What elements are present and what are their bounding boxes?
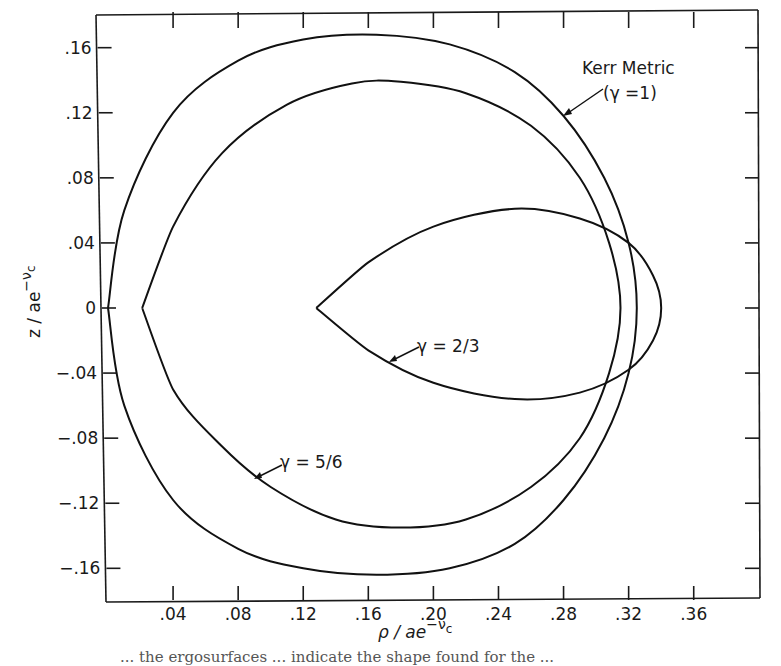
x-tick-label: .08: [225, 604, 252, 624]
y-tick-labels: .16.12.08.040−.04−.08−.12−.16: [56, 38, 101, 579]
x-tick-label: .24: [485, 604, 512, 624]
gamma-5-6-label: γ = 5/6: [280, 452, 342, 472]
y-tick-label: −.12: [58, 493, 99, 513]
svg-text:ρ / ae−νc: ρ / ae−νc: [378, 616, 452, 642]
x-tick-label: .36: [680, 604, 707, 624]
gamma-5-6-arrow: [258, 465, 282, 477]
kerr-label-line2: (γ =1): [603, 83, 657, 103]
kerr-label-line1: Kerr Metric: [582, 58, 675, 78]
figure-caption: ... the ergosurfaces ... indicate the sh…: [120, 648, 554, 666]
gamma-2-3-label: γ = 2/3: [417, 336, 479, 356]
y-tick-label: 0: [85, 298, 96, 318]
arrow-head-icon: [389, 355, 397, 362]
y-tick-label: .08: [67, 168, 94, 188]
y-tick-label: .04: [68, 233, 95, 253]
x-tick-label: .12: [290, 604, 317, 624]
y-tick-label: −.16: [59, 558, 100, 578]
y-tick-label: .16: [65, 38, 92, 58]
x-tick-label: .32: [615, 604, 642, 624]
x-tick-label: .28: [550, 604, 577, 624]
y-tick-label: −.04: [56, 363, 97, 383]
annotation-gamma-5-6: γ = 5/6: [254, 452, 342, 479]
curves: [108, 34, 661, 574]
arrow-head-icon: [563, 108, 572, 116]
kerr-arrow: [568, 89, 603, 113]
x-axis-title: ρ / ae−νc: [378, 616, 452, 642]
annotation-gamma-2-3: γ = 2/3: [389, 336, 479, 362]
x-tick-label: .04: [160, 604, 187, 624]
gamma-5-6-curve: [142, 81, 620, 528]
x-tick-label: .16: [355, 604, 382, 624]
y-tick-label: −.08: [57, 428, 98, 448]
y-tick-label: .12: [66, 103, 93, 123]
axis-ticks: [98, 12, 759, 600]
kerr-metric-curve: [108, 34, 637, 574]
svg-text:z / ae−νc: z / ae−νc: [18, 265, 44, 338]
gamma-2-3-arrow: [393, 347, 419, 360]
y-axis-title: z / ae−νc: [18, 265, 44, 338]
annotation-kerr: Kerr Metric (γ =1): [563, 58, 675, 116]
